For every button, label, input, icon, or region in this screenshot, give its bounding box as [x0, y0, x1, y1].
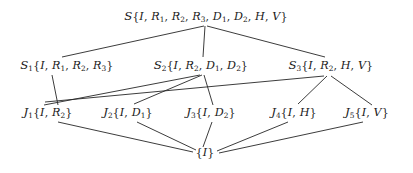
close-brace: }: [228, 106, 235, 119]
lattice-node-i: {I}: [196, 147, 215, 158]
member-separator: ,: [178, 59, 185, 72]
set-member: H: [255, 10, 265, 23]
lattice-edge: [217, 122, 288, 151]
lattice-edge: [58, 122, 193, 152]
member-separator: ,: [265, 10, 272, 23]
lattice-node-s2: S2{I, R2, D1, D2}: [154, 60, 248, 72]
member-separator: ,: [65, 59, 72, 72]
set-member: D: [227, 59, 236, 72]
lattice-edge: [62, 26, 204, 57]
lattice-node-s: S{I, R1, R2, R3, D1, D2, H, V}: [124, 11, 287, 23]
node-prefix-symbol: J: [103, 107, 108, 118]
set-member: R: [172, 10, 181, 23]
close-brace: }: [280, 10, 287, 23]
lattice-diagram: S{I, R1, R2, R3, D1, D2, H, V}S1{I, R1, …: [0, 0, 413, 173]
member-separator: ,: [199, 59, 206, 72]
member-separator: ,: [333, 59, 340, 72]
lattice-node-s3: S3{I, R2, H, V}: [289, 60, 374, 72]
node-prefix-symbol: S: [20, 60, 28, 71]
member-separator: ,: [248, 10, 255, 23]
lattice-edge: [203, 26, 205, 57]
lattice-edge: [331, 76, 372, 105]
close-brace: }: [106, 59, 113, 72]
lattice-node-j5: J5{I, V}: [345, 107, 389, 119]
lattice-edge: [204, 75, 213, 105]
node-prefix-symbol: J: [186, 107, 191, 118]
set-member: R: [52, 59, 61, 72]
set-member: D: [213, 10, 222, 23]
set-member: R: [93, 59, 102, 72]
close-brace: }: [65, 106, 72, 119]
member-separator: ,: [313, 59, 320, 72]
set-member: V: [272, 10, 280, 23]
close-brace: }: [382, 106, 389, 119]
lattice-node-j4: J4{I, H}: [271, 107, 316, 119]
open-brace: {: [354, 106, 361, 119]
open-brace: {: [113, 106, 120, 119]
set-member: R: [185, 59, 194, 72]
open-brace: {: [166, 59, 173, 72]
member-separator: ,: [86, 59, 93, 72]
lattice-edge: [219, 122, 363, 153]
node-prefix-symbol: S: [288, 60, 296, 71]
close-brace: }: [145, 106, 152, 119]
open-brace: {: [33, 106, 40, 119]
lattice-edge: [298, 76, 327, 104]
lattice-edge: [134, 75, 202, 104]
set-member: H: [300, 106, 310, 119]
open-brace: {: [196, 106, 203, 119]
set-member: H: [341, 59, 351, 72]
lattice-edge: [207, 26, 325, 57]
set-member: D: [234, 10, 243, 23]
lattice-node-j1: J1{I, R2}: [24, 107, 73, 119]
node-prefix-symbol: S: [124, 11, 132, 22]
set-member: R: [320, 59, 329, 72]
close-brace: }: [207, 146, 214, 159]
lattice-node-s1: S1{I, R1, R2, R3}: [20, 60, 113, 72]
member-separator: ,: [185, 10, 192, 23]
open-brace: {: [301, 59, 308, 72]
open-brace: {: [281, 106, 288, 119]
close-brace: }: [310, 106, 317, 119]
lattice-edge: [203, 122, 212, 147]
lattice-node-j2: J2{I, D1}: [103, 107, 152, 119]
set-member: R: [73, 59, 82, 72]
set-member: D: [206, 59, 215, 72]
member-separator: ,: [45, 59, 52, 72]
node-prefix-symbol: J: [23, 107, 28, 118]
set-member: V: [373, 106, 381, 119]
node-prefix-symbol: S: [154, 60, 162, 71]
set-member: R: [52, 106, 61, 119]
close-brace: }: [366, 59, 373, 72]
lattice-edge: [45, 76, 324, 102]
lattice-node-j3: J3{I, D2}: [186, 107, 235, 119]
open-brace: {: [33, 59, 40, 72]
member-separator: ,: [144, 10, 151, 23]
node-prefix-symbol: J: [271, 107, 276, 118]
open-brace: {: [132, 10, 139, 23]
node-prefix-symbol: J: [345, 107, 350, 118]
close-brace: }: [241, 59, 248, 72]
member-separator: ,: [227, 10, 234, 23]
